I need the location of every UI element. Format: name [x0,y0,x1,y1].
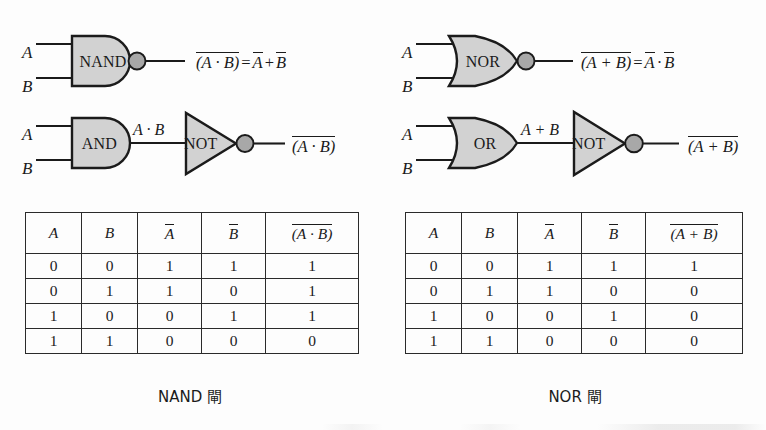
nor-identity-rhs-a: A [645,53,655,72]
nor-cell-r1c3: 0 [582,279,646,304]
nand-cell-r1c2: 1 [138,279,202,304]
and-not-output-text: (A · B) [292,137,335,156]
and-intermediate-signal-label: A · B [133,122,164,138]
nand-equivalent-row: A B AND A · B NOT (A · B) [0,108,383,193]
nand-cell-r0c2: 1 [138,254,202,279]
nand-cell-r0c0: 0 [26,254,82,279]
nand-cell-r3c1: 1 [82,329,138,354]
nand-identity-rhs-op: + [263,53,276,72]
table-row: 0 1 1 0 0 [406,279,743,304]
nor-header-output-text: (A + B) [670,225,717,242]
nand-header-output: (A · B) [266,213,359,254]
nand-gate-row: A B NAND (A · B)=A+B [0,28,383,103]
table-row: 1 0 0 1 1 [26,304,359,329]
nor-header-not-a: A [518,213,582,254]
nor-cell-r0c4: 1 [646,254,743,279]
nand-cell-r3c4: 0 [266,329,359,354]
nand-identity-rhs-a: A [253,53,263,72]
and-not-output-expression: (A · B) [292,136,335,156]
not-gate-label: NOT [572,135,620,153]
nor-cell-r0c0: 0 [406,254,462,279]
panel-nor: A B NOR (A + B)=A·B A B OR A + B NOT [383,0,766,430]
nor-identity-rhs-b: B [664,53,674,72]
nand-cell-r2c0: 1 [26,304,82,329]
or-gate-label: OR [461,135,509,153]
nor-header-not-b: B [582,213,646,254]
nor-inversion-bubble-icon [518,53,535,70]
nor-cell-r2c3: 1 [582,304,646,329]
nand-header-not-a: A [138,213,202,254]
nor-header-b: B [462,213,518,254]
nand-header-not-b: B [202,213,266,254]
nor-cell-r2c0: 1 [406,304,462,329]
nand-caption: NAND 閘 [25,385,355,406]
nor-identity-rhs-op: · [655,53,665,72]
nor-equivalent-row: A B OR A + B NOT (A + B) [383,108,766,193]
nand-input-a-label: A [22,44,32,61]
nor-input-b-label: B [402,78,412,95]
nor-table-header-row: A B A B (A + B) [406,213,743,254]
nor-identity-expression: (A + B)=A·B [581,52,674,72]
nor-identity-lhs: (A + B) [581,53,631,72]
table-row: 1 1 0 0 0 [26,329,359,354]
table-row: 1 0 0 1 0 [406,304,743,329]
nand-input-b-label: B [22,78,32,95]
nor-gate-row: A B NOR (A + B)=A·B [383,28,766,103]
nand-header-not-b-text: B [229,225,238,242]
nor-header-a: A [406,213,462,254]
nand-cell-r2c4: 1 [266,304,359,329]
nand-identity-equals: = [239,53,252,72]
nor-caption: NOR 閘 [405,385,745,406]
nor-cell-r1c2: 1 [518,279,582,304]
nand-header-not-a-text: A [165,225,174,242]
nand-cell-r1c4: 1 [266,279,359,304]
nand-header-b: B [82,213,138,254]
nor-gate-label: NOR [455,53,511,71]
not-inversion-bubble-icon [237,135,254,152]
nor-cell-r3c1: 1 [462,329,518,354]
nor-header-output: (A + B) [646,213,743,254]
nor-cell-r2c4: 0 [646,304,743,329]
panel-nand: A B NAND (A · B)=A+B A B A [0,0,383,430]
page-bottom-edge-artifact [0,424,766,430]
nand-header-b-text: B [105,224,114,241]
nand-cell-r3c0: 1 [26,329,82,354]
nand-header-a: A [26,213,82,254]
nand-cell-r0c3: 1 [202,254,266,279]
or-intermediate-signal-label: A + B [521,122,559,138]
nand-cell-r1c0: 0 [26,279,82,304]
nor-cell-r1c4: 0 [646,279,743,304]
nor-cell-r3c2: 0 [518,329,582,354]
nand-identity-expression: (A · B)=A+B [196,52,286,72]
table-row: 0 0 1 1 1 [406,254,743,279]
nor-input-a-label: A [402,44,412,61]
nor-cell-r1c0: 0 [406,279,462,304]
nor-header-a-text: A [429,224,438,241]
nor-cell-r3c3: 0 [582,329,646,354]
nor-header-not-b-text: B [609,225,618,242]
table-row: 1 1 0 0 0 [406,329,743,354]
nand-cell-r2c2: 0 [138,304,202,329]
nand-table-body: 0 0 1 1 1 0 1 1 0 1 1 0 0 1 [26,254,359,354]
nand-cell-r3c2: 0 [138,329,202,354]
nand-header-output-text: (A · B) [292,225,333,242]
or-not-output-expression: (A + B) [688,136,738,156]
and-input-b-label: B [22,160,32,177]
nand-cell-r1c1: 1 [82,279,138,304]
table-row: 0 1 1 0 1 [26,279,359,304]
or-not-output-text: (A + B) [688,137,738,156]
nor-gate-diagram [383,28,766,106]
nand-cell-r2c3: 1 [202,304,266,329]
or-input-a-label: A [402,126,412,143]
nand-cell-r2c1: 0 [82,304,138,329]
nor-table-body: 0 0 1 1 1 0 1 1 0 0 1 0 0 1 [406,254,743,354]
table-row: 0 0 1 1 1 [26,254,359,279]
nand-cell-r0c4: 1 [266,254,359,279]
not-gate-label: NOT [184,135,232,153]
nand-identity-rhs-b: B [276,53,286,72]
or-input-b-label: B [402,160,412,177]
nor-cell-r2c1: 0 [462,304,518,329]
nand-table-header-row: A B A B (A · B) [26,213,359,254]
nor-identity-equals: = [631,53,644,72]
nor-header-b-text: B [485,224,494,241]
